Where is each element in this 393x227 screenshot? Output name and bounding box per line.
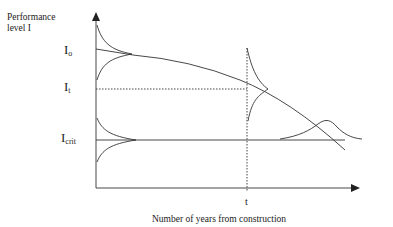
i-o-distribution — [97, 25, 132, 80]
y-axis-arrow-icon — [92, 12, 100, 21]
diagram-canvas — [0, 0, 393, 227]
i-o-line — [96, 49, 133, 55]
x-axis-arrow-icon — [351, 184, 360, 192]
deterioration-curve — [133, 55, 345, 150]
